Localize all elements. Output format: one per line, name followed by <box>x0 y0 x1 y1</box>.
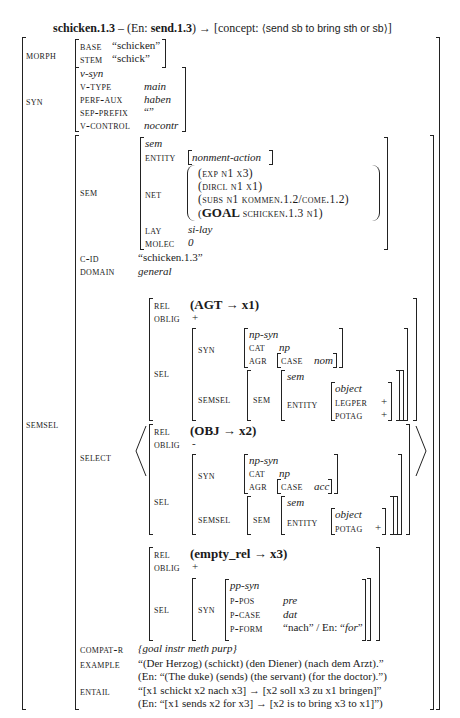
sepprefix-value: “” <box>144 105 154 118</box>
sel1-sem-right-bracket <box>396 370 400 421</box>
select-right-angle <box>414 426 428 476</box>
cid-value: “schicken.1.3” <box>138 251 203 264</box>
sel3-pcase-value: dat <box>283 608 297 621</box>
vcontrol-label: V-CONTROL <box>80 119 130 132</box>
sel3-rel-value: (empty_rel → x3) <box>190 547 287 560</box>
vtype-value: main <box>144 80 166 93</box>
semsel-right-bracket <box>430 135 434 710</box>
sel2-entity-type: object <box>335 508 362 521</box>
sel1-right-bracket <box>413 298 417 421</box>
sel1-semsel-left-bracket <box>247 370 251 421</box>
net-item-2: (DIRCL N1 X1) <box>198 180 262 193</box>
select-left-angle <box>134 426 148 476</box>
sel1-syn-right-bracket <box>339 328 343 368</box>
entail-de: “[x1 schickt x2 nach x3] → [x2 soll x3 z… <box>138 684 381 697</box>
sel1-sel-left-bracket <box>192 328 196 421</box>
sel2-rel-value: (OBJ → x2) <box>190 424 256 437</box>
sel3-syn-type: pp-syn <box>230 579 259 592</box>
sel2-sem-label: SEM <box>253 513 270 526</box>
sel1-oblig-label: OBLIG <box>154 312 180 325</box>
sel2-right-bracket <box>406 424 410 535</box>
sel2-semsel-label: SEMSEL <box>198 513 230 526</box>
base-label: BASE <box>80 40 102 53</box>
sel2-potag-label: POTAG <box>335 522 363 535</box>
sel1-legper-label: LEGPER <box>335 396 367 409</box>
morph-label: MORPH <box>26 49 56 62</box>
sel2-left-bracket <box>149 424 153 535</box>
sel2-entity-label: ENTITY <box>287 516 318 529</box>
lay-value: si-lay <box>188 223 212 236</box>
sel3-oblig-value: + <box>192 560 198 573</box>
sel1-potag-value: + <box>381 408 387 421</box>
net-right-paren <box>371 165 380 221</box>
domain-label: DOMAIN <box>80 265 115 278</box>
sem-type: sem <box>145 137 162 150</box>
sel3-ppos-label: P-POS <box>230 594 254 607</box>
sel2-sem-type: sem <box>287 496 304 509</box>
lemma: schicken.1.3 <box>53 21 115 35</box>
sel2-syn-type: np-syn <box>249 454 278 467</box>
sel1-cat-label: CAT <box>249 341 265 354</box>
semsel-left-bracket <box>75 135 79 710</box>
sel3-right-bracket <box>376 547 380 641</box>
sel1-sem-left-bracket <box>281 370 285 421</box>
sel1-sel-right-bracket <box>404 328 408 421</box>
example-de: “(Der Herzog) (schickt) (den Diener) (na… <box>138 657 384 670</box>
sem-left-bracket <box>140 137 144 250</box>
vtype-label: V-TYPE <box>80 80 111 93</box>
entail-en: (En: “[x1 sends x2 for x3] → [x2 is to b… <box>138 697 383 710</box>
sel2-sel-left-bracket <box>192 454 196 535</box>
vcontrol-value: nocontr <box>144 119 178 132</box>
sel2-entity-right-bracket <box>382 508 386 535</box>
sel3-oblig-label: OBLIG <box>154 561 180 574</box>
select-label: SELECT <box>80 451 111 464</box>
sel1-entity-right-bracket <box>388 382 392 421</box>
sel3-rel-label: REL <box>154 548 170 561</box>
net-left-paren <box>187 165 196 221</box>
sem-right-bracket <box>384 137 388 250</box>
sel1-rel-value: (AGT → x1) <box>190 298 259 311</box>
sel3-pcase-label: P-CASE <box>230 608 261 621</box>
molec-value: 0 <box>188 236 194 249</box>
sel2-agr-right-bracket <box>328 479 332 494</box>
outer-left-bracket <box>22 37 26 710</box>
syn-right-bracket <box>182 67 186 132</box>
concept: ⟨send sb to bring sth or sb⟩ <box>262 22 388 34</box>
sel2-sel-label: SEL <box>154 495 169 508</box>
sel3-pform-value: “nach” / En: “for” <box>283 621 363 634</box>
sel1-rel-label: REL <box>154 299 170 312</box>
perfaux-label: PERF-AUX <box>80 93 123 106</box>
sel1-left-bracket <box>149 298 153 421</box>
sem-label: SEM <box>80 186 97 199</box>
sel3-ppos-value: pre <box>283 594 297 607</box>
lay-label: LAY <box>145 224 162 237</box>
sem-entity-value: nonment-action <box>192 151 261 164</box>
sel1-legper-value: + <box>381 395 387 408</box>
sel2-rel-label: REL <box>154 425 170 438</box>
sel2-sem-right-bracket <box>390 496 394 535</box>
syn-left-bracket <box>75 67 79 132</box>
sel1-syn-type: np-syn <box>249 328 278 341</box>
morph-left-bracket <box>75 39 79 68</box>
sel1-semsel-label: SEMSEL <box>198 393 230 406</box>
entail-label: ENTAIL <box>80 685 110 698</box>
sel1-agr-right-bracket <box>333 353 337 368</box>
sel1-case-value: nom <box>314 354 333 367</box>
semsel-label: SEMSEL <box>26 418 58 431</box>
sel2-syn-left-bracket <box>244 454 248 494</box>
sem-entity-label: ENTITY <box>145 151 176 164</box>
sel2-oblig-value: - <box>192 437 196 450</box>
syn-label: SYN <box>26 95 43 108</box>
sel1-case-label: CASE <box>281 354 303 367</box>
sel2-case-value: acc <box>314 480 329 493</box>
sel1-potag-label: POTAG <box>335 409 363 422</box>
example-en: (En: “(The duke) (sends) (the servant) (… <box>138 670 387 683</box>
morph-right-bracket <box>162 39 166 68</box>
sel2-case-label: CASE <box>281 480 303 493</box>
outer-right-bracket <box>436 37 440 710</box>
sel2-oblig-label: OBLIG <box>154 438 180 451</box>
stem-label: STEM <box>80 53 103 66</box>
net-item-1: (EXP N1 X3) <box>198 167 253 180</box>
sel3-sel-label: SEL <box>154 603 169 616</box>
sel3-pform-label: P-FORM <box>230 622 263 635</box>
